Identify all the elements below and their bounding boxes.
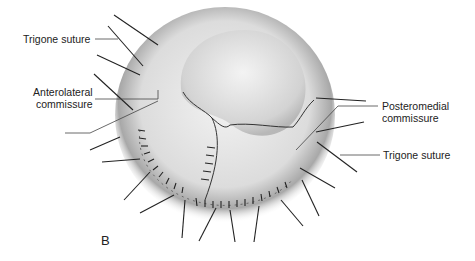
label-line: commissure xyxy=(382,112,449,124)
label-line: commissure xyxy=(32,98,93,110)
label-line: Anterolateral xyxy=(32,86,93,98)
label-trigone-suture-left: Trigone suture xyxy=(23,33,90,45)
label-anterolateral-commissure: Anterolateral commissure xyxy=(32,86,93,110)
panel-label: B xyxy=(101,235,110,247)
label-trigone-suture-right: Trigone suture xyxy=(383,149,450,161)
label-posteromedial-commissure: Posteromedial commissure xyxy=(382,100,449,124)
label-line: Posteromedial xyxy=(382,100,449,112)
